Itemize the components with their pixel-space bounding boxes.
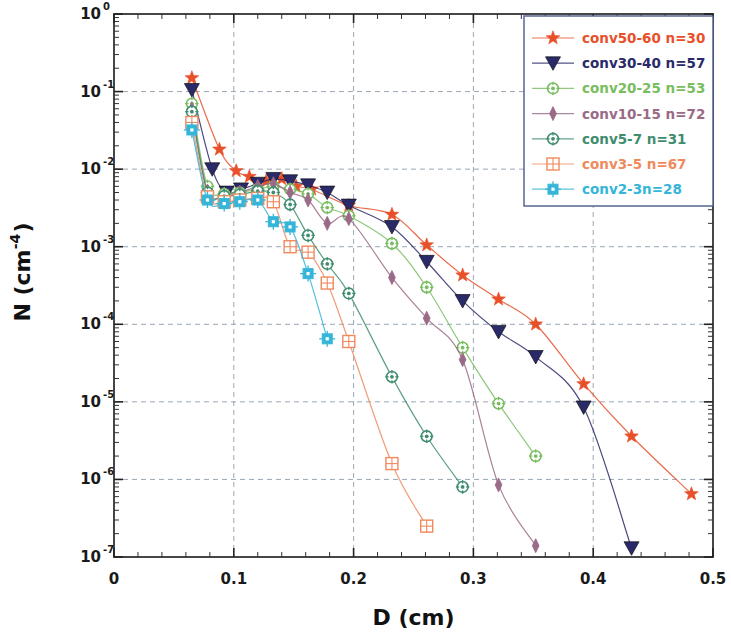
square-dot-center [551,188,554,191]
data-point-circle-dot [492,397,506,411]
data-point-star [229,164,243,177]
star-marker [185,71,199,84]
y-axis-title-exponent: -4 [7,233,23,249]
y-axis-title: N (cm-4) [7,222,35,321]
data-point-circle-dot [385,370,399,384]
data-point-star [529,317,543,330]
triangle-marker [576,401,591,415]
x-tick-label: 0.5 [700,570,727,588]
circle-marker-dot [271,191,275,195]
square-dot-center [326,337,329,340]
legend-label: conv5-7 n=31 [582,131,687,147]
triangle-marker [624,542,639,556]
y-tick-label: 10 [80,548,101,566]
data-point-square-grid [343,335,355,347]
legend-label: conv3-5 n=67 [582,156,687,172]
circle-marker-dot [534,454,538,458]
circle-marker-dot [461,485,465,489]
data-point-square-grid [302,246,314,258]
legend[interactable]: conv50-60 n=30conv30-40 n=57conv20-25 n=… [524,16,713,206]
data-point-square-dot [319,331,335,347]
legend-label: conv10-15 n=72 [582,106,705,122]
y-tick-exponent: -5 [103,389,114,400]
x-tick-label: 0.3 [460,570,487,588]
data-point-diamond [389,271,396,285]
triangle-marker [491,325,506,339]
y-tick-label: 10 [80,315,101,333]
data-point-diamond [423,311,430,325]
legend-label: conv30-40 n=57 [582,55,705,71]
data-point-circle-dot [456,480,470,494]
square-dot-center [306,272,309,275]
data-point-circle-dot [420,430,434,444]
circle-marker-dot [461,346,465,350]
y-tick-label: 10 [80,5,101,23]
circle-marker-dot [390,375,394,379]
data-point-star [213,142,227,155]
x-tick-label: 0.1 [221,570,248,588]
data-point-square-grid [321,277,333,289]
data-point-star [185,71,199,84]
data-point-circle-dot [301,229,315,243]
triangle-marker [184,84,199,98]
square-dot-center [206,198,209,201]
star-marker [492,292,506,305]
circle-marker-dot [306,233,310,237]
data-point-diamond [324,216,331,230]
diamond-marker [389,271,396,285]
circle-marker-dot [551,137,555,141]
star-marker [229,164,243,177]
y-axis-title-close: ) [10,222,35,232]
data-point-circle-dot [529,449,543,463]
series-conv20-25 [185,97,542,463]
circle-marker-dot [190,110,194,114]
data-point-circle-dot [320,201,334,215]
x-tick-label: 0 [109,570,119,588]
circle-marker-dot [347,292,351,296]
data-point-star [492,292,506,305]
x-tick-label: 0.4 [580,570,607,588]
y-tick-exponent: -7 [103,544,114,555]
y-tick-label: 10 [80,83,101,101]
square-dot-center [256,198,259,201]
y-tick-exponent: -2 [103,156,114,167]
data-point-triangle-down [491,325,506,339]
data-point-square-grid [386,458,398,470]
data-point-triangle-down [576,401,591,415]
y-tick-label: 10 [80,238,101,256]
circle-marker-dot [425,285,429,289]
x-tick-label: 0.2 [340,570,367,588]
y-tick-exponent: -1 [103,79,114,90]
y-tick-exponent: -4 [103,311,114,322]
triangle-marker [384,221,399,235]
square-dot-center [272,220,275,223]
data-point-diamond [532,539,539,553]
data-point-circle-dot [420,281,434,295]
data-point-square-dot [300,266,316,282]
data-point-square-grid [284,241,296,253]
y-tick-exponent: 0 [103,1,110,12]
diamond-marker [532,539,539,553]
legend-label: conv2-3n=28 [582,181,682,197]
legend-label: conv20-25 n=53 [582,80,705,96]
data-point-square-grid [421,520,433,532]
circle-marker-dot [390,242,394,246]
diamond-marker [423,311,430,325]
legend-item-conv5-7[interactable]: conv5-7 n=31 [532,131,687,147]
triangle-marker [528,351,543,365]
y-tick-label: 10 [80,470,101,488]
circle-marker-dot [497,402,501,406]
star-marker [529,317,543,330]
square-dot-center [223,202,226,205]
data-point-triangle-down [624,542,639,556]
triangle-marker [320,186,335,200]
data-point-triangle-down [184,84,199,98]
y-tick-label: 10 [80,393,101,411]
circle-marker-dot [325,262,329,266]
y-tick-label: 10 [80,160,101,178]
square-dot-center [289,225,292,228]
circle-marker-dot [425,434,429,438]
legend-item-conv3-5[interactable]: conv3-5 n=67 [532,156,687,172]
plot-svg: 10010-110-210-310-410-510-610-700.10.20.… [0,0,731,643]
y-tick-exponent: -6 [103,466,114,477]
